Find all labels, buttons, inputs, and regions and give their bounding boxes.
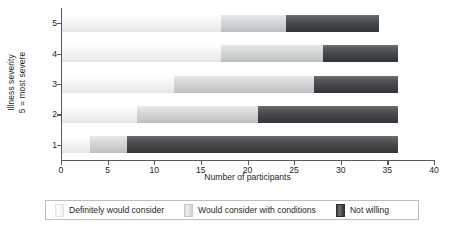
dark-swatch [336,204,345,217]
x-tick-mark [108,160,109,165]
bar-segment [221,45,324,62]
bar-segment [62,15,221,32]
bar-segment [62,106,137,123]
y-tick-label: 5 [52,19,57,28]
x-tick-mark [61,160,62,165]
plot-area: 54321 0510152025303540 [61,8,434,160]
bar-segment [90,136,127,153]
bar-segment [323,45,398,62]
chart-legend: Definitely would considerWould consider … [45,200,419,220]
bar-segment [62,76,174,93]
x-tick-mark [387,160,388,165]
y-axis-title-line-1: Illness severity [7,52,18,113]
bar-segment [258,106,398,123]
y-tick-label: 2 [52,110,57,119]
bar-segment [62,136,90,153]
legend-item-label: Would consider with conditions [198,205,316,215]
x-tick-mark [201,160,202,165]
x-tick-mark [434,160,435,165]
bar-segment [174,76,314,93]
y-axis-title: Illness severity 5 = most severe [0,0,34,165]
x-tick-mark [294,160,295,165]
y-tick-label: 3 [52,80,57,89]
y-tick-label: 4 [52,49,57,58]
legend-item: Not willing [336,204,389,217]
y-axis-title-line-2: 5 = most severe [17,52,28,113]
x-tick-mark [154,160,155,165]
bar-segment [314,76,398,93]
legend-item: Definitely would consider [55,204,164,217]
x-axis-title: Number of participants [61,172,434,182]
light-swatch [55,204,64,217]
x-tick-mark [248,160,249,165]
bar-segment [286,15,379,32]
medium-swatch [184,204,193,217]
bar-segment [221,15,286,32]
bar-segment [137,106,258,123]
bar-segment [62,45,221,62]
legend-item: Would consider with conditions [184,204,316,217]
chart-figure: Illness severity 5 = most severe 54321 0… [0,0,463,232]
x-tick-mark [341,160,342,165]
y-tick-label: 1 [52,141,57,150]
legend-item-label: Definitely would consider [69,205,164,215]
bar-segment [127,136,397,153]
legend-item-label: Not willing [350,205,389,215]
